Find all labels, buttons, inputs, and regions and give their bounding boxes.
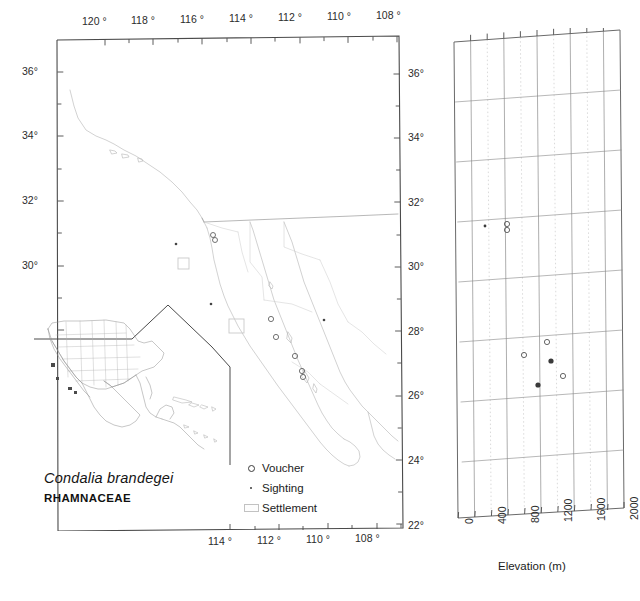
- lat-label-left-1: 34°: [22, 129, 38, 141]
- scientific-name: Condalia brandegei: [44, 470, 173, 486]
- lat-label-right-3: 30°: [408, 260, 424, 272]
- legend-item-sighting: Sighting: [240, 478, 350, 498]
- lat-label-right-1: 34°: [408, 131, 424, 143]
- legend-label-voucher: Voucher: [262, 462, 304, 474]
- elev-tick-label-4: 1600: [595, 498, 607, 521]
- legend-item-voucher: Voucher: [240, 458, 350, 478]
- settlement-icon: [240, 504, 262, 512]
- legend-label-settlement: Settlement: [262, 502, 317, 514]
- lat-label-right-7: 22°: [408, 519, 424, 531]
- lon-label-top-2: 116 °: [180, 13, 204, 25]
- lon-label-bottom-2: 110 °: [306, 533, 330, 545]
- lat-label-left-3: 30°: [22, 259, 38, 271]
- lon-label-bottom-3: 108 °: [355, 532, 380, 544]
- inset-range-markers: [51, 363, 77, 394]
- inset-frame-chamfer: [168, 305, 212, 347]
- lat-label-right-5: 26°: [408, 389, 424, 401]
- elev-tick-label-2: 800: [529, 505, 541, 523]
- lat-label-right-4: 28°: [408, 325, 424, 337]
- lon-label-top-3: 114 °: [229, 12, 253, 24]
- lat-label-right-2: 32°: [408, 196, 424, 208]
- inset-map-svg: [34, 305, 234, 465]
- lat-label-left-0: 36°: [22, 65, 38, 77]
- family-name: RHAMNACEAE: [44, 492, 173, 504]
- lon-label-bottom-0: 114 °: [208, 535, 232, 547]
- sighting-icon: [240, 487, 262, 490]
- lon-label-bottom-1: 112 °: [257, 534, 281, 546]
- lon-label-top-5: 110 °: [327, 10, 351, 22]
- elev-tick-label-1: 400: [496, 506, 508, 524]
- elevation-axis-caption: Elevation (m): [498, 560, 566, 572]
- elevation-svg: [446, 28, 626, 520]
- legend: Voucher Sighting Settlement: [240, 458, 350, 518]
- lon-label-top-6: 108 °: [376, 9, 401, 21]
- lat-label-right-0: 36°: [408, 67, 424, 79]
- voucher-icon: [240, 465, 262, 472]
- elevation-panel: 0 400 800 1200 1600 2000: [446, 28, 626, 520]
- lon-label-top-4: 112 °: [278, 11, 302, 23]
- elev-tick-label-0: 0: [463, 518, 475, 524]
- legend-item-settlement: Settlement: [240, 498, 350, 518]
- caption-block: Condalia brandegei RHAMNACEAE: [44, 470, 173, 504]
- lon-label-top-0: 120 °: [82, 15, 107, 27]
- inset-map-panel: [34, 305, 234, 465]
- inset-frame-right: [212, 347, 230, 465]
- lon-label-top-1: 118 °: [131, 14, 155, 26]
- elev-tick-label-3: 1200: [562, 499, 574, 522]
- elev-tick-label-5: 2000: [628, 497, 640, 520]
- lat-label-right-6: 24°: [408, 454, 424, 466]
- lat-label-left-2: 32°: [22, 194, 38, 206]
- legend-label-sighting: Sighting: [262, 482, 304, 494]
